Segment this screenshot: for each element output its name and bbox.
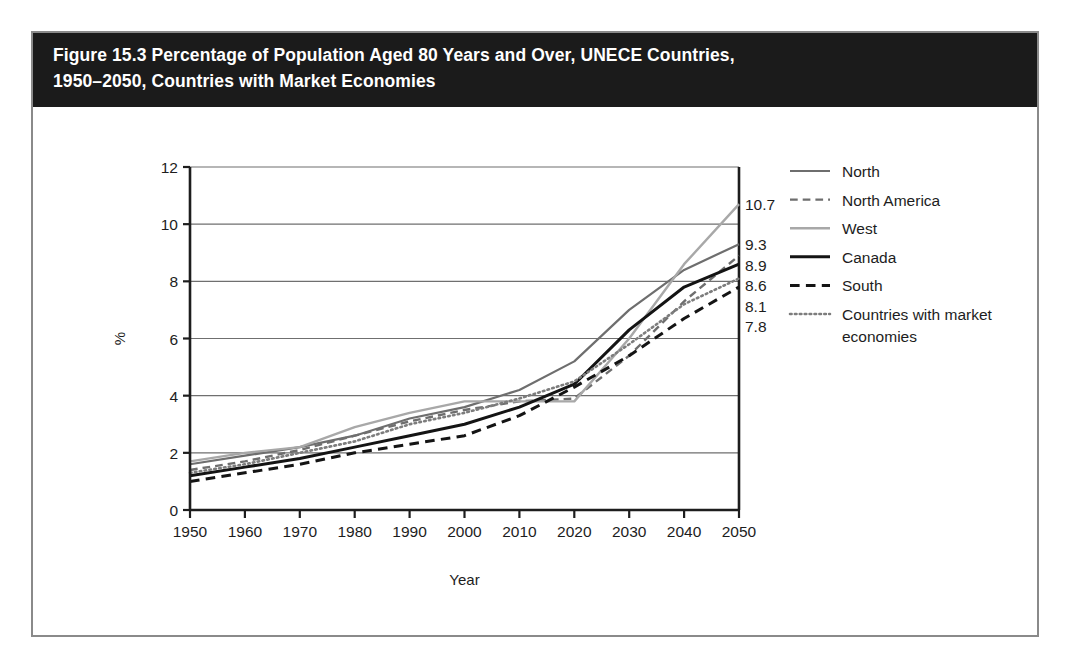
legend-label: North America (842, 192, 941, 209)
x-tick-label: 2020 (557, 523, 592, 540)
x-tick-label: 2010 (502, 523, 537, 540)
y-tick-label: 2 (169, 445, 178, 462)
figure-page: Figure 15.3 Percentage of Population Age… (0, 0, 1070, 667)
figure-panel: Figure 15.3 Percentage of Population Age… (31, 31, 1039, 637)
series-end-label: 8.1 (745, 298, 767, 315)
y-axis-label: % (111, 332, 128, 345)
legend-label-wrap: economies (842, 328, 917, 345)
series-line (190, 256, 739, 470)
y-tick-label: 4 (169, 388, 178, 405)
x-tick-label: 2050 (722, 523, 757, 540)
y-tick-label: 12 (161, 159, 178, 176)
figure-title-line-2: 1950–2050, Countries with Market Economi… (53, 68, 1019, 94)
series-line (190, 244, 739, 464)
y-tick-label: 10 (161, 216, 179, 233)
legend-label: South (842, 277, 883, 294)
series-end-label: 7.8 (745, 318, 767, 335)
legend-label: Countries with market (842, 306, 993, 323)
figure-title-bar: Figure 15.3 Percentage of Population Age… (33, 33, 1037, 107)
x-tick-label: 2030 (612, 523, 647, 540)
x-tick-label: 1990 (392, 523, 427, 540)
x-tick-label: 1950 (173, 523, 208, 540)
series-end-label: 8.9 (745, 257, 767, 274)
chart-area: 024681012 195019601970198019902000201020… (33, 107, 1037, 637)
x-axis-ticks-group: 1950196019701980199020002010202020302040… (173, 510, 757, 540)
x-axis-label: Year (449, 571, 479, 588)
y-tick-label: 0 (169, 502, 178, 519)
line-chart: 024681012 195019601970198019902000201020… (33, 107, 1037, 637)
legend-label: North (842, 163, 880, 180)
y-tick-label: 8 (169, 273, 178, 290)
legend-label: Canada (842, 249, 897, 266)
x-tick-label: 2040 (667, 523, 702, 540)
series-end-label: 8.6 (745, 277, 767, 294)
series-line (190, 264, 739, 476)
end-labels-group: 10.79.38.98.68.17.8 (745, 196, 775, 335)
data-series-group (190, 204, 739, 481)
figure-title-line-1: Figure 15.3 Percentage of Population Age… (53, 42, 1019, 68)
legend-label: West (842, 220, 878, 237)
series-end-label: 9.3 (745, 236, 767, 253)
legend: NorthNorth AmericaWestCanadaSouthCountri… (790, 163, 993, 345)
y-tick-label: 6 (169, 331, 178, 348)
x-tick-label: 1970 (283, 523, 318, 540)
y-axis-ticks-group: 024681012 (161, 159, 190, 519)
series-end-label: 10.7 (745, 196, 775, 213)
x-tick-label: 1980 (337, 523, 372, 540)
x-tick-label: 2000 (447, 523, 482, 540)
x-tick-label: 1960 (228, 523, 263, 540)
